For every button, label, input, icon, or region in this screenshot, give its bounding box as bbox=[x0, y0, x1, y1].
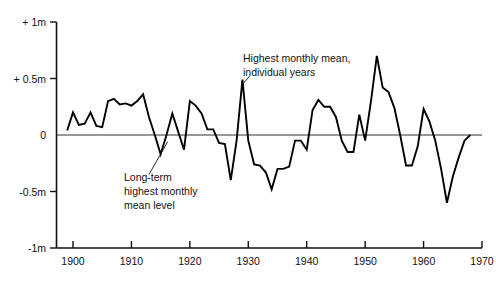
y-tick-label-4: -1m bbox=[28, 242, 46, 254]
annotation-peak-line-1: Highest monthly mean, bbox=[243, 52, 350, 64]
x-tick-label-1940: 1940 bbox=[295, 255, 319, 267]
x-tick-label-1960: 1960 bbox=[412, 255, 436, 267]
y-tick-label-3: -0.5m bbox=[19, 186, 46, 198]
y-tick-label-2: 0 bbox=[40, 129, 46, 141]
x-tick-label-1970: 1970 bbox=[470, 255, 494, 267]
x-tick-label-1930: 1930 bbox=[237, 255, 261, 267]
y-tick-label-1: + 0.5m bbox=[14, 73, 47, 85]
annotation-longterm-line-3: mean level bbox=[124, 199, 175, 211]
x-tick-label-1950: 1950 bbox=[353, 255, 377, 267]
y-tick-label-0: + 1m bbox=[22, 16, 46, 28]
annotation-longterm-line-2: highest monthly bbox=[124, 185, 198, 197]
chart-canvas: + 1m + 0.5m 0 -0.5m -1m 1900191019201930… bbox=[0, 0, 496, 282]
chart-figure: + 1m + 0.5m 0 -0.5m -1m 1900191019201930… bbox=[0, 0, 496, 282]
x-tick-label-1920: 1920 bbox=[178, 255, 202, 267]
x-tick-label-1910: 1910 bbox=[120, 255, 144, 267]
annotation-peak-line-2: individual years bbox=[243, 66, 315, 78]
annotation-longterm-line-1: Long-term bbox=[124, 171, 172, 183]
x-tick-label-1900: 1900 bbox=[61, 255, 85, 267]
